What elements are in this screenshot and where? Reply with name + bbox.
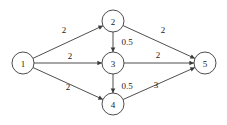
arrowhead-3-to-5-icon	[189, 61, 194, 66]
arrowhead-1-to-3-icon	[97, 61, 102, 66]
node-3: 3	[102, 52, 124, 74]
node-2-label: 2	[111, 17, 116, 27]
edge-weight-4-to-5: 3	[154, 80, 159, 90]
nodes-layer: 12345	[12, 10, 216, 115]
node-1-label: 1	[21, 59, 26, 69]
edge-weight-2-to-5: 2	[161, 25, 166, 35]
edge-weight-1-to-4: 2	[66, 82, 71, 92]
edge-weight-2-to-3: 0.5	[121, 37, 133, 47]
node-4: 4	[102, 93, 124, 115]
arrowhead-3-to-4-icon	[111, 88, 116, 93]
node-2: 2	[102, 10, 124, 32]
edge-weight-3-to-4: 0.5	[121, 81, 133, 91]
arrowhead-2-to-3-icon	[111, 47, 116, 52]
node-3-label: 3	[111, 59, 116, 69]
edge-weight-3-to-5: 2	[156, 50, 161, 60]
graph-diagram: 12345 2220.520.523	[0, 0, 227, 125]
edge-4-to-5	[123, 67, 195, 99]
node-5: 5	[194, 52, 216, 74]
edge-weight-1-to-3: 2	[68, 51, 73, 61]
node-4-label: 4	[111, 100, 116, 110]
node-1: 1	[12, 52, 34, 74]
edge-weight-1-to-2: 2	[62, 25, 67, 35]
graph-svg: 12345 2220.520.523	[0, 0, 227, 125]
node-5-label: 5	[203, 59, 208, 69]
